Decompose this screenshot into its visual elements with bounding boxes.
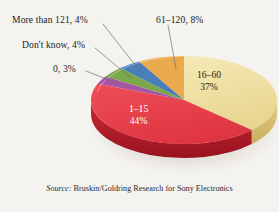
chart-source-prefix: Source: xyxy=(46,184,71,193)
leader-line-more-than-121 xyxy=(103,24,139,70)
chart-source-text: Bruskin/Goldring Research for Sony Elect… xyxy=(74,184,233,193)
pie-callout-label-more-than-121: More than 121, 4% xyxy=(12,14,88,25)
pie-slice-label-16-60: 16–60 37% xyxy=(197,69,221,92)
pie-slice-label-1-15-category: 1–15 xyxy=(129,103,148,115)
pie-callout-label-zero: 0, 3% xyxy=(53,63,76,74)
chart-source-note: Source: Bruskin/Goldring Research for So… xyxy=(0,184,279,193)
pie-chart-figure: More than 121, 4% 61–120, 8% Don't know,… xyxy=(0,0,279,212)
pie-slice-label-16-60-value: 37% xyxy=(197,81,221,93)
pie-slice-label-16-60-category: 16–60 xyxy=(197,69,221,81)
pie-callout-label-61-120: 61–120, 8% xyxy=(156,14,203,25)
pie-slice-label-1-15-value: 44% xyxy=(129,115,148,127)
pie-callout-label-dont-know: Don't know, 4% xyxy=(22,39,85,50)
pie-slice-label-1-15: 1–15 44% xyxy=(129,103,148,126)
